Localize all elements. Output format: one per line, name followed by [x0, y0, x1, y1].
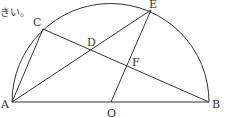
- label-e: E: [149, 0, 157, 11]
- label-d: D: [87, 36, 96, 49]
- label-o: O: [107, 107, 116, 118]
- label-f: F: [132, 56, 140, 69]
- semicircle-arc: [12, 3, 209, 102]
- semicircle-diagram: A B O C D E F: [0, 0, 225, 118]
- label-b: B: [212, 98, 220, 111]
- label-a: A: [0, 98, 10, 111]
- label-c: C: [33, 16, 41, 29]
- segment-ac: [12, 29, 43, 102]
